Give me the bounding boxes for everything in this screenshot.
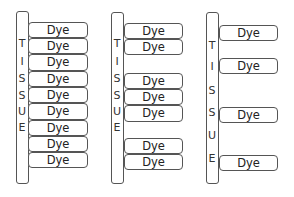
dye-box: Dye	[219, 155, 278, 171]
tissue-letter: S	[206, 107, 218, 118]
tissue-column-3: T I S S U E Dye Dye Dye Dye	[0, 0, 294, 197]
tissue-letter: T	[206, 40, 218, 51]
dye-box: Dye	[219, 107, 278, 123]
tissue-letter: I	[206, 61, 218, 72]
tissue-letter: E	[206, 153, 218, 164]
dye-box: Dye	[219, 25, 278, 41]
dye-box: Dye	[219, 58, 278, 74]
tissue-letter: S	[206, 85, 218, 96]
tissue-letter: U	[206, 130, 218, 141]
